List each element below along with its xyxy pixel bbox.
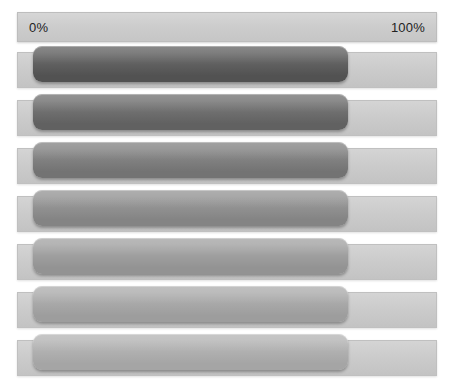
progress-fill[interactable] xyxy=(33,190,348,226)
progress-fill[interactable] xyxy=(33,286,348,322)
progress-row[interactable] xyxy=(0,285,450,333)
progress-fill[interactable] xyxy=(33,94,348,130)
progress-panel: 0% 100% xyxy=(0,0,450,384)
progress-row[interactable] xyxy=(0,189,450,237)
progress-fill[interactable] xyxy=(33,238,348,274)
progress-row[interactable] xyxy=(0,141,450,189)
progress-fill[interactable] xyxy=(33,334,348,370)
progress-row[interactable] xyxy=(0,237,450,285)
progress-fill[interactable] xyxy=(33,46,348,82)
scale-max-label: 100% xyxy=(391,21,425,34)
scale-min-label: 0% xyxy=(29,21,48,34)
progress-row[interactable] xyxy=(0,93,450,141)
progress-fill[interactable] xyxy=(33,142,348,178)
progress-row[interactable] xyxy=(0,45,450,93)
scale-header: 0% 100% xyxy=(17,12,437,42)
progress-row[interactable] xyxy=(0,333,450,381)
